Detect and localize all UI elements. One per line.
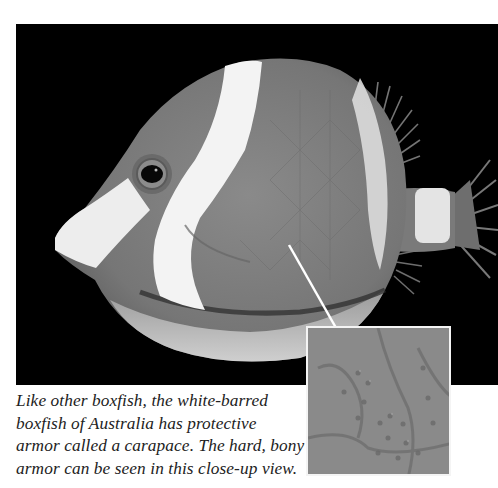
caption-line-3: armor called a carapace. The hard, bony xyxy=(16,435,306,458)
carapace-closeup-inset xyxy=(306,326,451,476)
caption-line-1: Like other boxfish, the white-barred xyxy=(16,390,306,413)
caption-line-2: boxfish of Australia has protective xyxy=(16,413,306,436)
carapace-texture-icon xyxy=(308,328,451,476)
caption-line-4: armor can be seen in this close-up view. xyxy=(16,458,306,481)
photo-caption: Like other boxfish, the white-barred box… xyxy=(16,390,306,480)
